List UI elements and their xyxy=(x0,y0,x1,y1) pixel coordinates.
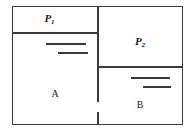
region-b-level-line-2 xyxy=(143,86,171,88)
label-p1: P1 xyxy=(0,13,99,24)
region-a-level-line-1 xyxy=(46,43,86,45)
region-b-level-line-1 xyxy=(131,77,170,79)
partitioned-container-diagram: P1 P2 A B xyxy=(0,0,195,133)
label-p1-subscript: 1 xyxy=(51,18,55,26)
label-b: B xyxy=(97,100,183,110)
partition-below-p1 xyxy=(12,32,99,34)
label-p2-subscript: 2 xyxy=(142,41,146,49)
region-a-level-line-2 xyxy=(58,52,88,54)
label-a: A xyxy=(12,89,98,99)
label-p2: P2 xyxy=(97,36,183,47)
central-partition-lower xyxy=(97,112,99,125)
partition-below-p2 xyxy=(97,66,183,68)
label-p2-text: P xyxy=(135,35,142,47)
